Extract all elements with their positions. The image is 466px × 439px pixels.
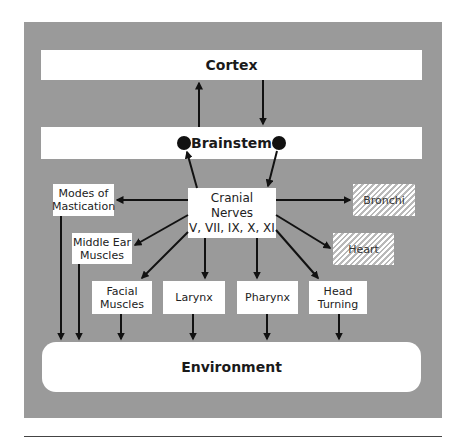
facial-muscles-box: Facial Muscles: [92, 281, 152, 314]
cranial-nerves-box: Cranial Nerves V, VII, IX, X, XI: [188, 188, 276, 238]
middle-ear-muscles-box: Middle Ear Muscles: [72, 233, 132, 264]
pharynx-box: Pharynx: [237, 281, 298, 314]
brainstem-label: Brainstem: [191, 135, 272, 151]
cortex-label: Cortex: [205, 57, 257, 73]
bronchi-box: Bronchi: [353, 184, 415, 216]
bottom-rule: [24, 436, 442, 437]
brainstem-box: Brainstem: [41, 127, 422, 159]
larynx-box: Larynx: [163, 281, 225, 314]
cortex-box: Cortex: [41, 50, 422, 80]
heart-box: Heart: [333, 233, 394, 265]
environment-box: Environment: [42, 342, 421, 392]
modes-of-mastication-box: Modes of Mastication: [53, 184, 114, 216]
head-turning-box: Head Turning: [309, 281, 367, 314]
environment-label: Environment: [181, 359, 282, 375]
